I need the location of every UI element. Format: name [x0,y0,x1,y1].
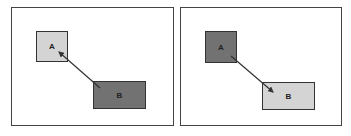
left-box-a-label: A [49,42,55,51]
right-panel [180,7,342,126]
left-box-b-label: B [117,91,123,100]
right-box-b-label: B [286,92,292,101]
left-box-a: A [36,31,68,62]
right-box-b: B [262,82,315,110]
right-box-a-label: A [218,43,224,52]
left-box-b: B [93,81,146,109]
right-box-a: A [205,31,237,63]
